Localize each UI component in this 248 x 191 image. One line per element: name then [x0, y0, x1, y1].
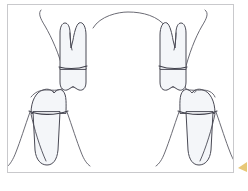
palatal-arch-curve: [93, 12, 166, 28]
upper-left-tooth-root: [60, 23, 86, 69]
gingival-outline-upper-right: [184, 10, 207, 89]
gingival-outline-lower-right-outer: [216, 112, 238, 166]
corner-marker-icon: [236, 160, 248, 174]
gingival-outline-lower-left-inner: [67, 112, 90, 166]
dental-diagram-drawing: [0, 0, 248, 191]
upper-right-tooth-root: [160, 23, 186, 69]
figure-canvas: [0, 0, 248, 191]
lower-right-molar-crown: [180, 89, 215, 113]
gingival-outline-lower-left-outer: [8, 112, 30, 166]
gingival-outline-lower-right-inner: [156, 112, 179, 166]
